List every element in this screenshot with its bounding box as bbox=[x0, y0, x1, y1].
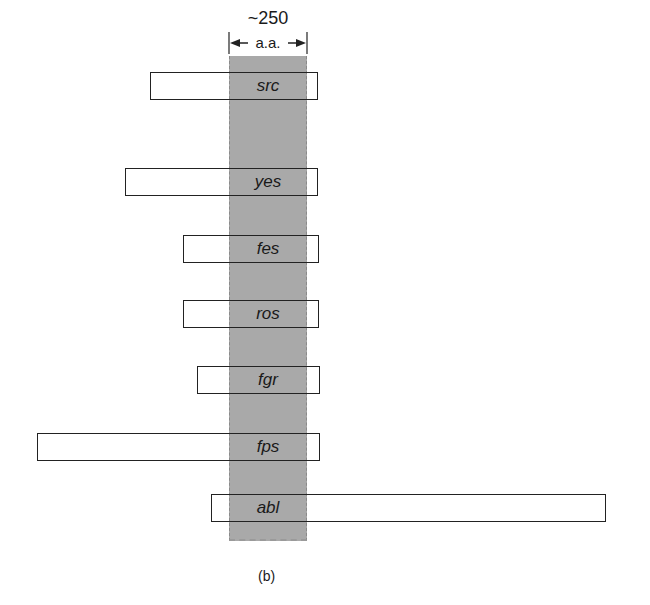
dimension-value: ~250 bbox=[230, 8, 306, 29]
figure-caption: (b) bbox=[258, 568, 275, 584]
segment-label-fgr: fgr bbox=[229, 370, 307, 390]
segment-label-src: src bbox=[229, 76, 307, 96]
dimension-label: a.a. bbox=[255, 34, 280, 51]
core-region bbox=[229, 56, 307, 541]
dimension-arrow: a.a. bbox=[228, 32, 308, 54]
segment-label-ros: ros bbox=[229, 304, 307, 324]
segment-label-fes: fes bbox=[229, 239, 307, 259]
segment-label-abl: abl bbox=[229, 498, 307, 518]
segment-label-yes: yes bbox=[229, 172, 307, 192]
segment-label-fps: fps bbox=[229, 437, 307, 457]
